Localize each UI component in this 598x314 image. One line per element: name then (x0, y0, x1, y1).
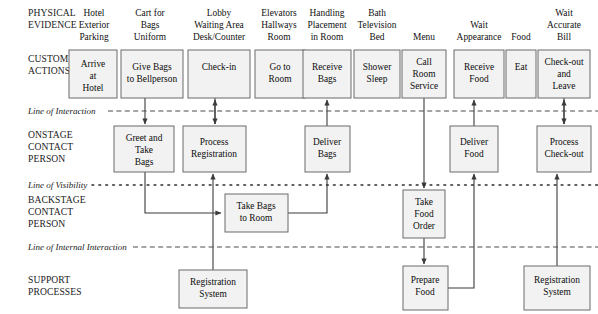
box-label-line: and (557, 69, 571, 79)
box-label-line: Food (464, 149, 484, 159)
box-label-line: Process (550, 137, 579, 147)
evidence-line: Hotel (84, 8, 105, 18)
row-label-line: BACKSTAGE (28, 194, 86, 205)
box-label-line: Give Bags (132, 62, 172, 72)
box-label-line: Room (413, 69, 437, 79)
process-box-shower-sleep[interactable]: Shower Sleep (354, 50, 400, 98)
evidence-line: Handling (310, 8, 345, 18)
row-label-physical-evidence: PHYSICAL EVIDENCE (28, 7, 77, 30)
box-label-line: Deliver (460, 137, 489, 147)
row-label-backstage-contact-person: BACKSTAGE CONTACT PERSON (28, 194, 86, 229)
box-label-line: Process (200, 137, 229, 147)
box-label-line: Take (415, 197, 433, 207)
process-box-receive-food[interactable]: Receive Food (454, 50, 504, 98)
box-label-line: Bags (318, 149, 337, 159)
process-box-take-bags-to-room[interactable]: Take Bags to Room (225, 194, 288, 232)
box-label-line: Registration (190, 277, 236, 287)
process-box-process-check-out[interactable]: Process Check-out (537, 126, 591, 172)
evidence-line: Hallways (261, 20, 297, 30)
separator-line-of-internal-interaction: Line of Internal Interaction (27, 242, 598, 252)
process-box-registration-system-left[interactable]: Registration System (179, 270, 247, 308)
row-label-line: PROCESSES (28, 286, 82, 297)
service-blueprint-diagram: PHYSICAL EVIDENCE CUSTOMER ACTIONS ONSTA… (0, 0, 598, 314)
evidence-line: Bags (141, 20, 160, 30)
physical-evidence-item-hotel-exterior: Hotel Exterior Parking (79, 8, 111, 42)
physical-evidence-item-elevators: Elevators Hallways Room (261, 8, 297, 42)
box-shape[interactable] (506, 50, 536, 98)
evidence-line: Wait (470, 20, 488, 30)
process-box-deliver-food[interactable]: Deliver Food (450, 126, 498, 172)
box-label-line: to Bellperson (127, 74, 178, 84)
evidence-line: Placement (307, 20, 346, 30)
box-label-line: Food (469, 74, 489, 84)
process-box-receive-bags[interactable]: Receive Bags (303, 50, 351, 98)
conn-take-bags-to-room-to-deliver-bags (288, 174, 327, 213)
process-box-deliver-bags[interactable]: Deliver Bags (305, 126, 350, 172)
process-box-call-room-service[interactable]: Call Room Service (402, 50, 446, 98)
evidence-line: Bill (557, 32, 571, 42)
row-label-line: PHYSICAL (28, 7, 76, 18)
physical-evidence-item-lobby: Lobby Waiting Area Desk/Counter (193, 8, 246, 42)
evidence-line: Appearance (457, 32, 502, 42)
process-box-registration-system-right[interactable]: Registration System (524, 266, 590, 310)
evidence-line: in Room (311, 32, 344, 42)
box-label-line: Shower (363, 62, 393, 72)
evidence-line: Wait (555, 8, 573, 18)
evidence-line: Waiting Area (194, 20, 244, 30)
box-label-line: Order (413, 221, 436, 231)
process-box-take-food-order[interactable]: Take Food Order (403, 190, 445, 238)
customer-actions-row: Arrive at Hotel Give Bags to Bellperson … (69, 50, 590, 98)
separator-line-of-visibility: Line of Visibility (27, 180, 598, 190)
physical-evidence-item-handling-placement: Handling Placement in Room (307, 8, 346, 42)
box-label-line: Food (415, 287, 435, 297)
box-label-line: to Room (240, 213, 273, 223)
process-box-check-out-and-leave[interactable]: Check-out and Leave (538, 50, 590, 98)
box-label-line: Sleep (367, 74, 388, 84)
process-box-give-bags-to-bellperson[interactable]: Give Bags to Bellperson (121, 50, 183, 98)
process-box-greet-and-take-bags[interactable]: Greet and Take Bags (114, 126, 174, 172)
box-label-line: Bags (135, 157, 154, 167)
box-shape[interactable] (188, 50, 250, 98)
process-box-go-to-room[interactable]: Go to Room (255, 50, 305, 98)
evidence-line: Bath (368, 8, 386, 18)
process-box-process-registration[interactable]: Process Registration (183, 126, 246, 172)
box-label-line: Food (414, 209, 434, 219)
process-box-arrive-at-hotel[interactable]: Arrive at Hotel (69, 50, 117, 98)
support-processes-row: Registration System Prepare Food Registr… (179, 266, 590, 310)
separator-label: Line of Visibility (27, 180, 87, 190)
onstage-contact-row: Greet and Take Bags Process Registration… (114, 126, 591, 172)
process-box-prepare-food[interactable]: Prepare Food (403, 266, 448, 310)
box-label-line: Bags (318, 74, 337, 84)
row-label-line: CONTACT (28, 206, 73, 217)
box-label-line: Check-in (202, 62, 237, 72)
process-box-check-in[interactable]: Check-in (188, 50, 250, 98)
evidence-line: Menu (413, 32, 435, 42)
process-box-eat[interactable]: Eat (506, 50, 536, 98)
box-label-line: Room (269, 74, 293, 84)
backstage-contact-row: Take Bags to Room Take Food Order (225, 190, 445, 238)
box-label-line: Arrive (81, 59, 105, 69)
evidence-line: Television (358, 20, 397, 30)
blueprint-canvas: PHYSICAL EVIDENCE CUSTOMER ACTIONS ONSTA… (0, 0, 598, 314)
box-label-line: System (543, 287, 571, 297)
box-label-line: Leave (553, 81, 576, 91)
row-label-line: EVIDENCE (28, 19, 77, 30)
physical-evidence-item-menu: Menu (413, 32, 435, 42)
physical-evidence-item-cart-for-bags: Cart for Bags Uniform (134, 8, 167, 42)
box-label-line: Take Bags (236, 201, 276, 211)
box-label-line: Call (416, 57, 432, 67)
evidence-line: Parking (79, 32, 108, 42)
separator-label: Line of Interaction (27, 106, 96, 116)
evidence-line: Room (268, 32, 292, 42)
box-label-line: at (90, 71, 97, 81)
row-label-line: SUPPORT (28, 274, 70, 285)
physical-evidence-item-wait-accurate-bill: Wait Accurate Bill (547, 8, 581, 42)
row-label-line: ONSTAGE (28, 129, 73, 140)
separator-label: Line of Internal Interaction (27, 242, 127, 252)
box-label-line: Service (410, 81, 438, 91)
evidence-line: Food (511, 32, 531, 42)
box-label-line: Prepare (411, 275, 440, 285)
row-label-support-processes: SUPPORT PROCESSES (28, 274, 82, 297)
box-label-line: Registration (534, 275, 580, 285)
conn-greet-to-take-bags-to-room (145, 172, 221, 213)
